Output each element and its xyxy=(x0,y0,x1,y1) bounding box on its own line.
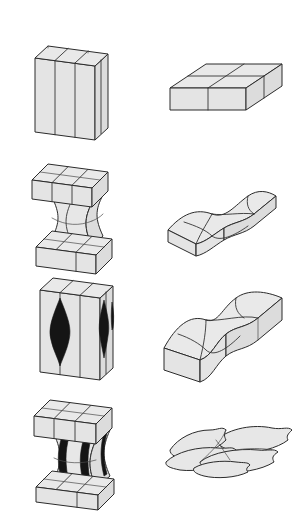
figure-canvas xyxy=(0,0,302,514)
row-3-left-block-with-lens-cavities xyxy=(40,278,114,380)
row-1-left-undeformed-prismatic-block xyxy=(35,46,108,140)
deformation-stages-figure xyxy=(0,0,302,514)
block-front-face xyxy=(35,58,95,140)
block-side-face xyxy=(95,54,108,140)
